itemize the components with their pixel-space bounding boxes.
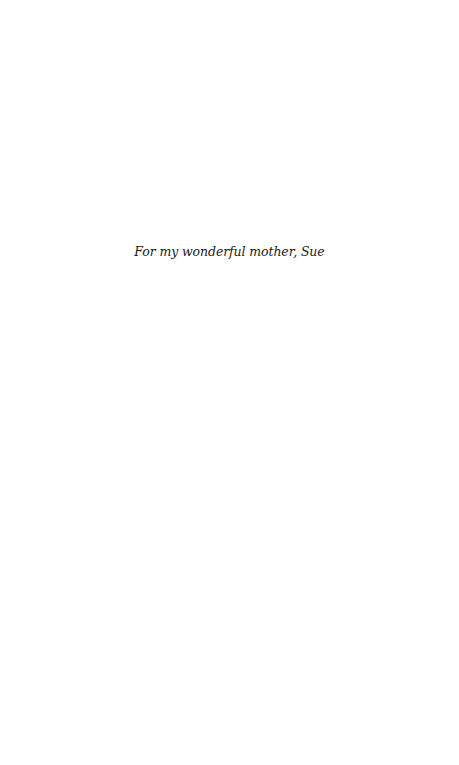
book-page: For my wonderful mother, Sue — [0, 0, 459, 765]
dedication-text: For my wonderful mother, Sue — [0, 244, 459, 260]
